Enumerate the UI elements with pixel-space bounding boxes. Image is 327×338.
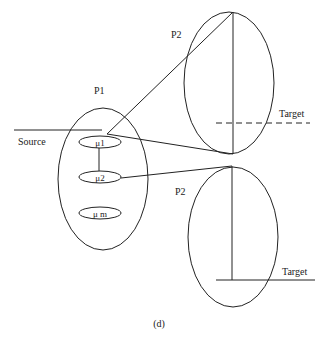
mum-label: μ m — [93, 209, 107, 219]
mu1-label: μ1 — [95, 138, 104, 148]
p2-top-ellipse — [184, 12, 274, 154]
p2-bottom-label: P2 — [175, 186, 186, 197]
diagram-canvas: P1 P2 P2 Source Target Target μ1 μ2 μ m … — [0, 0, 327, 338]
p2-top-target-label: Target — [279, 108, 304, 119]
source-label: Source — [18, 136, 46, 147]
p1-label: P1 — [94, 85, 105, 96]
map-line-mu1-to-p2-top-bottom — [107, 134, 233, 154]
p2-top-label: P2 — [171, 29, 182, 40]
p2-bottom-target-label: Target — [282, 266, 307, 277]
figure-caption: (d) — [153, 318, 165, 330]
map-line-mu1-to-p2-top-apex — [107, 12, 233, 134]
diagram-svg: P1 P2 P2 Source Target Target μ1 μ2 μ m … — [0, 0, 327, 338]
mu2-label: μ2 — [95, 173, 104, 183]
p2-bottom-ellipse — [188, 167, 278, 307]
